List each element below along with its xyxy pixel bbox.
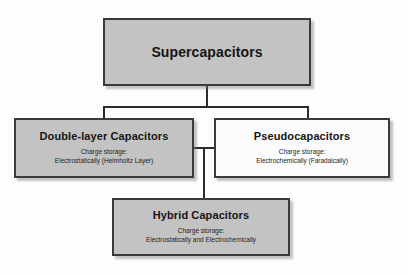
node-double-layer-capacitors-subtitle: Charge storage: Electrostatically (Helmh…	[55, 148, 153, 166]
node-hybrid-capacitors-subtitle-line1: Charge storage:	[146, 227, 256, 236]
connector-middle-to-hybrid	[203, 147, 205, 198]
connector-super-to-split	[206, 86, 208, 108]
node-hybrid-capacitors: Hybrid Capacitors Charge storage: Electr…	[112, 198, 290, 256]
supercapacitor-classification-diagram: Supercapacitors Double-layer Capacitors …	[0, 0, 408, 275]
node-hybrid-capacitors-title: Hybrid Capacitors	[153, 209, 249, 222]
node-double-layer-capacitors-title: Double-layer Capacitors	[40, 130, 169, 143]
connector-split-bar	[103, 106, 309, 108]
connector-split-to-pseudocapacitors	[307, 106, 309, 118]
node-pseudocapacitors: Pseudocapacitors Charge storage: Electro…	[214, 118, 390, 178]
node-pseudocapacitors-subtitle-line1: Charge storage:	[256, 148, 348, 157]
node-pseudocapacitors-title: Pseudocapacitors	[254, 130, 350, 143]
node-double-layer-capacitors-subtitle-line1: Charge storage:	[55, 148, 153, 157]
node-supercapacitors-title: Supercapacitors	[151, 44, 262, 60]
node-pseudocapacitors-subtitle-line2: Electrochemically (Faradaically)	[256, 157, 348, 166]
node-hybrid-capacitors-subtitle-line2: Electrostatically and Electrochemically	[146, 236, 256, 245]
node-pseudocapacitors-subtitle: Charge storage: Electrochemically (Farad…	[256, 148, 348, 166]
connector-split-to-double-layer	[103, 106, 105, 118]
node-supercapacitors: Supercapacitors	[103, 18, 311, 86]
node-double-layer-capacitors: Double-layer Capacitors Charge storage: …	[14, 118, 194, 178]
node-hybrid-capacitors-subtitle: Charge storage: Electrostatically and El…	[146, 227, 256, 245]
node-double-layer-capacitors-subtitle-line2: Electrostatically (Helmholtz Layer)	[55, 157, 153, 166]
